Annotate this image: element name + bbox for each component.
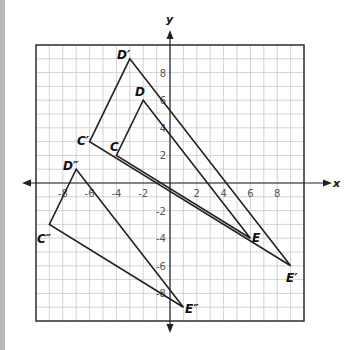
vertex-label-c: C [110, 140, 119, 154]
y-axis-top-arrow-icon [167, 30, 174, 39]
y-tick: 8 [160, 68, 166, 79]
vertex-label-e: E [252, 231, 261, 245]
y-tick: -2 [156, 206, 166, 217]
x-axis-label: x [332, 177, 341, 190]
x-tick: -4 [111, 188, 121, 199]
y-tick: 2 [160, 150, 166, 161]
vertex-label-d: D [135, 85, 145, 99]
x-tick: 2 [194, 188, 200, 199]
vertex-label-c-double-prime: C″ [37, 232, 52, 246]
vertex-label-c-prime: C′ [77, 134, 90, 148]
y-axis-label: y [166, 13, 174, 26]
triangle-c-prime [90, 59, 291, 266]
x-axis-right-arrow-icon [323, 180, 332, 187]
vertex-label-e-prime: E′ [286, 271, 298, 285]
y-axis-bottom-arrow-icon [167, 324, 174, 333]
y-tick: -6 [156, 261, 166, 272]
x-axis-left-arrow-icon [22, 180, 31, 187]
x-tick: 4 [220, 188, 226, 199]
y-tick: -4 [156, 233, 166, 244]
vertex-label-e-double-prime: E″ [185, 302, 199, 316]
x-tick: -2 [138, 188, 148, 199]
x-tick: 6 [247, 188, 253, 199]
vertex-label-d-double-prime: D″ [63, 159, 79, 173]
x-tick: 8 [274, 188, 280, 199]
coordinate-plane: x y -8 -6 -4 -2 2 4 6 8 8 6 4 2 -2 -4 -6… [0, 0, 345, 350]
vertex-label-d-prime: D′ [117, 48, 131, 62]
